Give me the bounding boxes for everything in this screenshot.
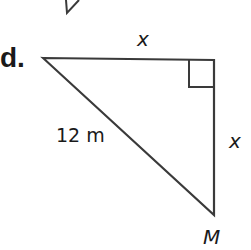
right-side-label: x xyxy=(229,129,241,153)
top-side-label: x xyxy=(137,27,149,51)
previous-figure-fragment xyxy=(66,0,79,13)
vertex-m-label: M xyxy=(203,225,220,249)
right-triangle-diagram xyxy=(0,0,251,250)
hypotenuse-label: 12 m xyxy=(56,124,105,146)
right-angle-marker xyxy=(189,60,214,87)
